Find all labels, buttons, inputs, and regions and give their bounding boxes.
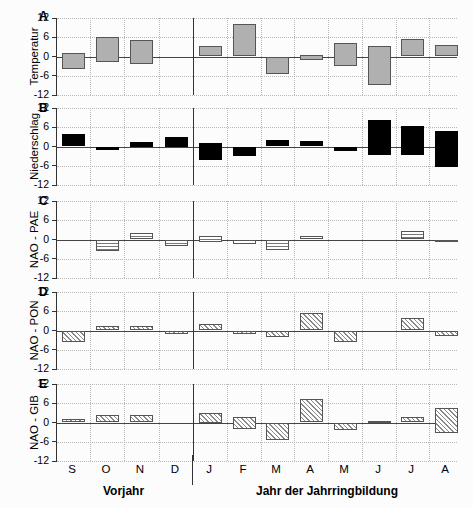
x-gridline (294, 384, 295, 461)
year-group-divider (193, 292, 194, 369)
bar (130, 326, 153, 330)
gridline (57, 185, 457, 186)
y-tick-mark (52, 403, 57, 404)
y-axis-label-d: NAO - PON (28, 292, 40, 369)
x-gridline (90, 18, 91, 95)
bar (96, 147, 119, 151)
y-tick-mark (52, 384, 57, 385)
x-gridline (159, 18, 160, 95)
bar (300, 399, 323, 423)
y-tick-mark (52, 127, 57, 128)
bar (401, 318, 424, 331)
bar (435, 331, 458, 337)
bar (266, 240, 289, 251)
bar (300, 313, 323, 330)
y-tick-label: 12 (37, 378, 49, 389)
x-gridline (124, 108, 125, 185)
x-gridline (124, 201, 125, 278)
x-gridline (294, 18, 295, 95)
bar (401, 39, 424, 56)
x-gridline (294, 108, 295, 185)
x-gridline (429, 201, 430, 278)
x-gridline (159, 108, 160, 185)
y-axis-label-e: NAO - GIB (28, 384, 40, 461)
x-tick-label: A (433, 463, 457, 475)
x-tick-label: J (399, 463, 423, 475)
x-axis: SONDJFMAMJJAVorjahrJahr der Jahrringbild… (0, 463, 473, 508)
x-gridline (90, 292, 91, 369)
x-tick-label: D (163, 463, 187, 475)
x-group-label-previous-year: Vorjahr (103, 484, 144, 498)
bar (233, 417, 256, 429)
bar (401, 231, 424, 239)
gridline (57, 311, 457, 312)
x-gridline (362, 18, 363, 95)
gridline (57, 369, 457, 370)
bar (199, 46, 222, 57)
y-tick-label: 0 (43, 51, 49, 62)
bar (435, 45, 458, 57)
x-gridline (124, 292, 125, 369)
x-gridline (328, 384, 329, 461)
bar (401, 126, 424, 155)
bar (165, 137, 188, 147)
year-group-divider (193, 201, 194, 278)
gridline (57, 76, 457, 77)
y-tick-label: -12 (34, 89, 49, 100)
y-tick-mark (52, 349, 57, 350)
x-gridline (90, 201, 91, 278)
gridline (57, 127, 457, 128)
bar (233, 147, 256, 157)
bar (96, 326, 119, 330)
y-tick-mark (52, 56, 57, 57)
bar (199, 143, 222, 160)
x-gridline (362, 201, 363, 278)
year-group-divider (193, 384, 194, 461)
y-tick-label: 12 (37, 286, 49, 297)
bar (435, 240, 458, 243)
bar (334, 331, 357, 342)
y-tick-mark (52, 441, 57, 442)
bar (401, 417, 424, 422)
bar (62, 134, 85, 147)
y-tick-label: 0 (43, 417, 49, 428)
plot-area-b: 1260-6-12 (56, 108, 457, 185)
gridline (57, 403, 457, 404)
gridline (57, 278, 457, 279)
y-tick-label: -12 (34, 179, 49, 190)
x-gridline (124, 18, 125, 95)
x-gridline (159, 384, 160, 461)
y-tick-label: -6 (40, 253, 49, 264)
x-group-label-ring-year: Jahr der Jahrringbildung (256, 484, 398, 498)
y-tick-label: 6 (43, 31, 49, 42)
x-tick-label: A (298, 463, 322, 475)
bar (368, 421, 391, 423)
y-tick-label: 0 (43, 325, 49, 336)
x-gridline (362, 384, 363, 461)
x-gridline (294, 292, 295, 369)
bar (334, 147, 357, 151)
y-tick-label: -6 (40, 160, 49, 171)
x-tick-label: J (366, 463, 390, 475)
x-gridline (227, 201, 228, 278)
y-tick-mark (52, 108, 57, 109)
bar (62, 53, 85, 69)
gridline (57, 442, 457, 443)
y-tick-mark (52, 422, 57, 423)
x-tick-label: F (231, 463, 255, 475)
y-tick-label: -6 (40, 344, 49, 355)
x-gridline (227, 108, 228, 185)
y-tick-label: 0 (43, 234, 49, 245)
bar (233, 240, 256, 245)
y-tick-mark (52, 369, 57, 370)
bar (334, 423, 357, 431)
x-gridline (328, 292, 329, 369)
gridline (57, 384, 457, 385)
gridline (57, 292, 457, 293)
x-gridline (227, 292, 228, 369)
y-axis-label-b: Niederschlag (28, 108, 40, 185)
x-gridline (396, 18, 397, 95)
gridline (57, 201, 457, 202)
year-group-divider (193, 108, 194, 185)
bar (130, 415, 153, 422)
